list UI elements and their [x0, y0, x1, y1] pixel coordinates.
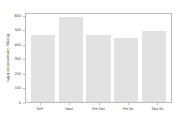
y-tick-mark [23, 103, 25, 104]
bar-Nest [59, 17, 83, 102]
y-tick-mark [23, 74, 25, 75]
bar-Pre-Tst [114, 38, 138, 102]
y-tick-mark [23, 30, 25, 31]
x-tick-label: Nest [54, 107, 84, 111]
bar-Pre-Sav [86, 35, 110, 102]
y-tick-mark [23, 59, 25, 60]
y-tick-label: 300 [0, 57, 21, 61]
y-tick-label: 600 [0, 14, 21, 18]
x-tick-label: Pre-Tst [113, 107, 143, 111]
y-tick-label: 400 [0, 43, 21, 47]
y-tick-mark [23, 88, 25, 89]
x-tick-label: Pre-Sav [84, 107, 114, 111]
y-tick-label: 500 [0, 28, 21, 32]
x-tick-mark [99, 103, 100, 105]
x-tick-label: Self [25, 107, 55, 111]
bar-Self [31, 35, 55, 102]
x-tick-mark [40, 103, 41, 105]
bar-chart-figure: Energy Consumed (in kWh) 010020030040050… [0, 0, 179, 130]
x-tick-mark [128, 103, 129, 105]
x-tick-mark [157, 103, 158, 105]
y-tick-label: 200 [0, 72, 21, 76]
bar-Sea-Tst [142, 31, 166, 102]
x-tick-label: Sea-Tst [142, 107, 172, 111]
y-tick-mark [23, 45, 25, 46]
y-tick-mark [23, 16, 25, 17]
y-tick-label: 0 [0, 101, 21, 105]
plot-area [25, 13, 172, 103]
y-tick-label: 100 [0, 86, 21, 90]
bar-series [26, 14, 171, 102]
x-tick-mark [69, 103, 70, 105]
